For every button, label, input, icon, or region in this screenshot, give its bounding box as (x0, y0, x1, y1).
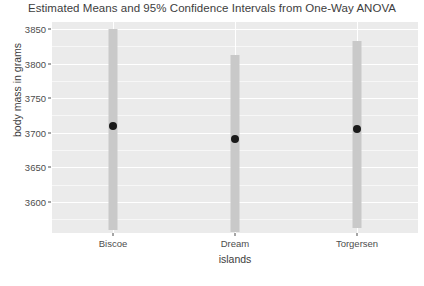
x-tick-label-torgersen: Torgersen (336, 238, 378, 249)
y-tick-label: 3650 (25, 162, 46, 173)
confidence-interval-bar (231, 55, 240, 231)
mean-point (353, 125, 361, 133)
mean-point (109, 122, 117, 130)
y-tick-mark (48, 28, 51, 29)
y-tick-mark (48, 98, 51, 99)
chart-figure: Estimated Means and 95% Confidence Inter… (0, 0, 424, 286)
y-tick-mark (48, 167, 51, 168)
x-tick-label-biscoe: Biscoe (99, 238, 128, 249)
chart-title: Estimated Means and 95% Confidence Inter… (0, 2, 424, 14)
y-axis-tick-marks (48, 22, 52, 233)
y-tick-label: 3850 (25, 23, 46, 34)
y-tick-label: 3600 (25, 196, 46, 207)
x-axis-title: islands (52, 253, 418, 265)
x-tick-label-dream: Dream (221, 238, 250, 249)
confidence-interval-bar (353, 41, 362, 228)
y-tick-mark (48, 132, 51, 133)
x-axis-tick-labels: BiscoeDreamTorgersen (52, 233, 418, 253)
y-tick-mark (48, 201, 51, 202)
x-tick-mark (113, 233, 114, 236)
y-tick-label: 3750 (25, 93, 46, 104)
y-tick-label: 3800 (25, 58, 46, 69)
plot-panel (52, 22, 418, 233)
y-tick-mark (48, 63, 51, 64)
y-axis-title: body mass in grams (11, 20, 23, 160)
x-tick-mark (357, 233, 358, 236)
y-tick-label: 3700 (25, 127, 46, 138)
x-tick-mark (235, 233, 236, 236)
mean-point (231, 135, 239, 143)
